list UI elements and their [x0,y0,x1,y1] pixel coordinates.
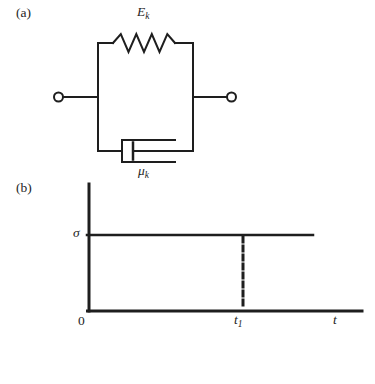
dashpot-icon [98,140,193,162]
origin-label: 0 [78,314,85,329]
panel-a-tag: (a) [16,6,31,21]
stress-axis-label: σ [73,226,80,241]
spring-label-symbol: E [137,4,145,19]
time-axis-label: t [333,313,337,328]
panel-b-tag: (b) [16,181,32,196]
figure: (a) Ek μk (b) σ 0 t1 t [0,0,375,384]
kelvin-voigt-circuit [54,34,236,162]
t1-tick-label: t1 [234,313,243,328]
dashpot-label-symbol: μ [138,163,145,178]
stress-time-graph [87,184,362,311]
figure-art [0,0,375,384]
right-terminal-icon [227,93,236,102]
t1-subscript: 1 [238,319,243,329]
spring-label-subscript: k [145,11,149,21]
spring-icon [113,34,175,52]
dashpot-label: μk [138,164,149,179]
dashpot-label-subscript: k [145,170,149,180]
spring-label: Ek [137,5,149,20]
left-terminal-icon [54,93,63,102]
